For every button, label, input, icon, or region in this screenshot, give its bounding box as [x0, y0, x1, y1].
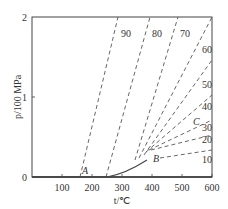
x-axis-title: t/℃ — [114, 195, 131, 206]
saturation-curve — [32, 160, 147, 177]
label-30: 30 — [202, 122, 212, 133]
label-40: 40 — [202, 101, 212, 112]
point-label-c: C — [193, 116, 200, 127]
isolines — [80, 17, 212, 177]
x-tick-100: 100 — [55, 182, 70, 193]
x-tick-600: 600 — [205, 182, 220, 193]
label-10: 10 — [202, 154, 212, 165]
label-50: 50 — [202, 79, 212, 90]
label-20: 20 — [202, 134, 212, 145]
label-70: 70 — [180, 28, 190, 39]
y-axis-title: p/100 MPa — [12, 74, 23, 119]
y-tick-0: 0 — [22, 172, 27, 183]
y-tick-2: 2 — [22, 12, 27, 23]
x-tick-300: 300 — [115, 182, 130, 193]
line-80 — [106, 17, 150, 177]
label-80: 80 — [152, 28, 162, 39]
x-tick-500: 500 — [175, 182, 190, 193]
point-label-b: B — [153, 153, 159, 164]
label-60: 60 — [202, 44, 212, 55]
phase-diagram-chart: 2 1 0 100 200 300 400 500 600 t/℃ p/100 … — [0, 0, 228, 209]
x-tick-400: 400 — [145, 182, 160, 193]
label-90: 90 — [121, 28, 131, 39]
x-tick-200: 200 — [85, 182, 100, 193]
point-label-a: A — [81, 165, 89, 176]
